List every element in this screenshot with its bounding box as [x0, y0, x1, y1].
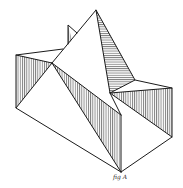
geometric-drawing: [0, 0, 183, 188]
left-shaded-face: [16, 55, 52, 108]
pyramid-shaded-face: [96, 10, 135, 93]
figure-caption: fig A: [113, 173, 127, 180]
